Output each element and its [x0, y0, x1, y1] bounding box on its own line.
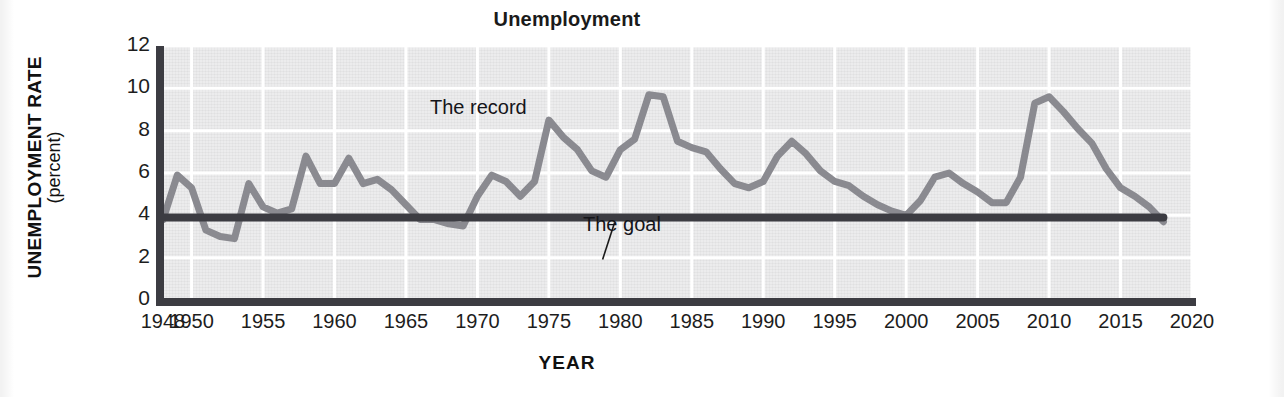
x-tick-label: 1995 [800, 310, 870, 333]
x-tick-label: 1970 [442, 310, 512, 333]
x-tick-label: 1950 [157, 310, 227, 333]
x-tick-label: 2005 [943, 310, 1013, 333]
x-tick-label: 1960 [300, 310, 370, 333]
y-tick-label: 8 [110, 117, 150, 141]
x-tick-label: 1985 [657, 310, 727, 333]
chart-title: Unemployment [0, 8, 1209, 31]
y-tick-label: 0 [110, 286, 150, 310]
y-axis-title: UNEMPLOYMENT RATE (percent) [25, 47, 64, 287]
x-tick-label: 1955 [228, 310, 298, 333]
annotation-the-goal: The goal [583, 213, 661, 236]
x-tick-label: 1965 [371, 310, 441, 333]
y-tick-label: 10 [110, 74, 150, 98]
x-tick-label: 1990 [728, 310, 798, 333]
y-tick-label: 6 [110, 159, 150, 183]
annotation-the-record: The record [430, 96, 527, 119]
y-tick-label: 12 [110, 32, 150, 56]
x-axis-title: YEAR [0, 352, 1209, 374]
x-tick-label: 2000 [871, 310, 941, 333]
y-axis-title-text: UNEMPLOYMENT RATE [24, 56, 45, 278]
y-axis-units-text: (percent) [45, 47, 64, 287]
x-axis-rule [156, 298, 1196, 306]
x-tick-label: 2020 [1157, 310, 1227, 333]
x-tick-label: 1975 [514, 310, 584, 333]
y-tick-label: 2 [110, 244, 150, 268]
x-tick-label: 1980 [585, 310, 655, 333]
x-tick-label: 2015 [1086, 310, 1156, 333]
x-tick-label: 2010 [1014, 310, 1084, 333]
plot-area [163, 46, 1192, 300]
chart-canvas [163, 46, 1192, 300]
x-axis-tick-labels: 1948195019551960196519701975198019851990… [0, 310, 1284, 340]
y-tick-label: 4 [110, 201, 150, 225]
data-series-group [163, 95, 1163, 260]
y-axis-rule [156, 46, 164, 304]
unemployment-chart-figure: Unemployment 121086420 19481950195519601… [0, 0, 1284, 397]
